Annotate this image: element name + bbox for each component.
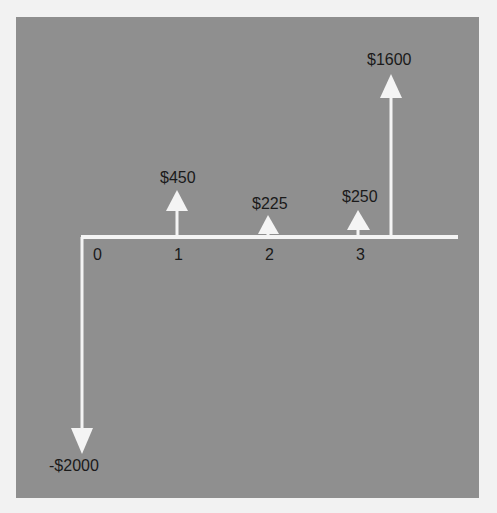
amount-label-2: $225 (252, 196, 288, 212)
amount-label-0: -$2000 (49, 458, 99, 474)
cash-flow-diagram (0, 0, 497, 513)
outflow-arrowhead-0 (71, 428, 93, 454)
period-label-0: 0 (93, 247, 102, 263)
period-label-1: 1 (174, 247, 183, 263)
inflow-arrowhead-3 (347, 210, 370, 230)
period-label-3: 3 (356, 247, 365, 263)
period-label-2: 2 (265, 247, 274, 263)
inflow-arrowhead-final (380, 74, 402, 98)
amount-label-final: $1600 (367, 52, 412, 68)
amount-label-1: $450 (160, 170, 196, 186)
inflow-arrowhead-1 (166, 190, 188, 211)
amount-label-3: $250 (342, 189, 378, 205)
inflow-arrowhead-2 (258, 215, 279, 234)
